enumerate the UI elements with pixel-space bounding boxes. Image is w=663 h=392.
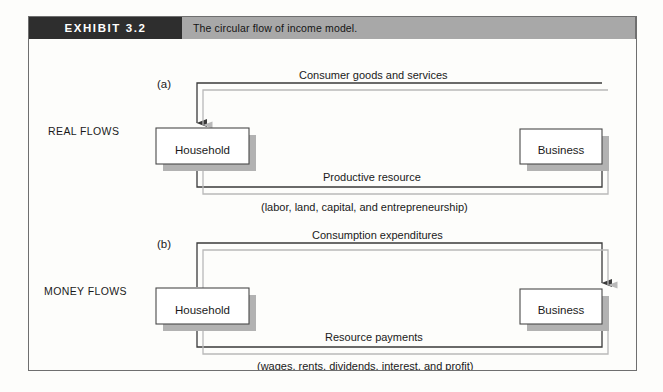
exhibit-caption-band: The circular flow of income model. — [182, 17, 636, 39]
panel-b: (b) MONEY FLOWS Consumption expenditures… — [44, 229, 609, 370]
panel-a-top-flow-light — [203, 90, 608, 125]
panel-a-bottom-flow-label: Productive resource — [323, 171, 421, 183]
panel-a-household-label: Household — [175, 144, 230, 156]
panel-b-bottom-flow-label: Resource payments — [325, 331, 423, 343]
panel-a-business-label: Business — [538, 144, 585, 156]
circular-flow-diagram: (a) REAL FLOWS Consumer goods and servic… — [29, 39, 636, 370]
panel-a-side-label: REAL FLOWS — [48, 125, 119, 137]
panel-b-top-flow-light — [203, 250, 608, 289]
panel-b-household-label: Household — [175, 304, 230, 316]
exhibit-header: EXHIBIT 3.2 The circular flow of income … — [29, 17, 636, 39]
panel-b-bottom-flow-sublabel: (wages, rents, dividends, interest, and … — [257, 360, 473, 370]
panel-a-letter: (a) — [157, 78, 171, 90]
diagram-svg: (a) REAL FLOWS Consumer goods and servic… — [29, 39, 636, 370]
exhibit-caption-text: The circular flow of income model. — [182, 22, 357, 34]
panel-b-business-label: Business — [538, 304, 585, 316]
panel-a-bottom-flow-sublabel: (labor, land, capital, and entrepreneurs… — [261, 201, 468, 213]
panel-a: (a) REAL FLOWS Consumer goods and servic… — [48, 69, 609, 213]
exhibit-number-tag: EXHIBIT 3.2 — [29, 17, 182, 39]
panel-b-letter: (b) — [157, 238, 171, 250]
panel-b-top-flow-label: Consumption expenditures — [312, 229, 443, 241]
exhibit-figure: EXHIBIT 3.2 The circular flow of income … — [28, 16, 637, 371]
panel-a-top-flow-dark — [197, 83, 602, 123]
panel-a-top-flow-label: Consumer goods and services — [299, 69, 448, 81]
panel-b-side-label: MONEY FLOWS — [44, 285, 127, 297]
